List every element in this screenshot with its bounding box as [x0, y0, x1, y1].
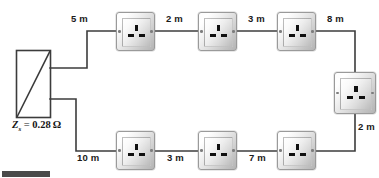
- earth-pin-icon: [217, 25, 221, 31]
- wire-right-to-bottom: [316, 114, 355, 151]
- screw-icon-right: [232, 149, 235, 152]
- live-pin-icon: [289, 34, 294, 37]
- screw-icon-right: [150, 149, 153, 152]
- impedance-value: 0.28: [32, 119, 50, 130]
- socket-faceplate: [122, 137, 152, 167]
- wire-top-feed: [50, 31, 116, 68]
- wire-top-to-right-corner: [316, 31, 355, 72]
- neutral-pin-icon: [139, 34, 144, 37]
- live-pin-icon: [128, 153, 133, 156]
- socket-faceplate: [122, 18, 152, 48]
- socket-outlet-top-3: [277, 12, 316, 51]
- dimension-label-5m: 5 m: [71, 13, 88, 24]
- earth-pin-icon: [135, 25, 139, 31]
- socket-faceplate: [283, 18, 313, 48]
- screw-icon-right: [311, 149, 314, 152]
- socket-faceplate: [283, 137, 313, 167]
- dimension-label-10m: 10 m: [77, 152, 99, 163]
- screw-icon-right: [371, 92, 374, 95]
- live-pin-icon: [347, 96, 353, 99]
- dimension-label-7m: 7 m: [249, 152, 266, 163]
- screw-icon-right: [311, 30, 314, 33]
- socket-outlet-bottom-3: [277, 131, 316, 170]
- dimension-label-3m-top: 3 m: [248, 13, 265, 24]
- neutral-pin-icon: [359, 96, 365, 99]
- socket-outlet-bottom-2: [198, 131, 237, 170]
- screw-icon-right: [150, 30, 153, 33]
- screw-icon-left: [200, 149, 203, 152]
- page-edge-artifact-bar: [2, 171, 50, 177]
- live-pin-icon: [210, 153, 215, 156]
- live-pin-icon: [289, 153, 294, 156]
- neutral-pin-icon: [139, 153, 144, 156]
- screw-icon-left: [279, 30, 282, 33]
- socket-outlet-top-1: [116, 12, 155, 51]
- socket-outlet-bottom-1: [116, 131, 155, 170]
- neutral-pin-icon: [300, 153, 305, 156]
- dimension-label-3m-bottom: 3 m: [167, 152, 184, 163]
- screw-icon-left: [118, 30, 121, 33]
- live-pin-icon: [210, 34, 215, 37]
- socket-faceplate: [204, 18, 234, 48]
- dimension-label-8m: 8 m: [327, 13, 344, 24]
- circuit-wiring-svg: [0, 0, 379, 178]
- socket-faceplate: [204, 137, 234, 167]
- impedance-equals: =: [21, 119, 32, 130]
- dimension-label-2m-right: 2 m: [358, 121, 375, 132]
- screw-icon-left: [279, 149, 282, 152]
- earth-pin-icon: [135, 144, 139, 150]
- earth-pin-icon: [217, 144, 221, 150]
- socket-outlet-top-2: [198, 12, 237, 51]
- screw-icon-left: [118, 149, 121, 152]
- socket-faceplate: [340, 78, 372, 110]
- ring-circuit-diagram: Zs = 0.28 Ω 5 m 2 m 3 m 8 m 2 m 10 m 3 m…: [0, 0, 379, 178]
- ohm-unit: Ω: [53, 119, 61, 130]
- earth-pin-icon: [296, 144, 300, 150]
- live-pin-icon: [128, 34, 133, 37]
- screw-icon-left: [200, 30, 203, 33]
- earth-pin-icon: [296, 25, 300, 31]
- screw-icon-right: [232, 30, 235, 33]
- neutral-pin-icon: [221, 34, 226, 37]
- dimension-label-2m-top: 2 m: [166, 13, 183, 24]
- earth-pin-icon: [354, 86, 358, 92]
- neutral-pin-icon: [221, 153, 226, 156]
- socket-outlet-right-1: [334, 72, 376, 114]
- supply-impedance-label: Zs = 0.28 Ω: [12, 119, 61, 135]
- neutral-pin-icon: [300, 34, 305, 37]
- screw-icon-left: [336, 92, 339, 95]
